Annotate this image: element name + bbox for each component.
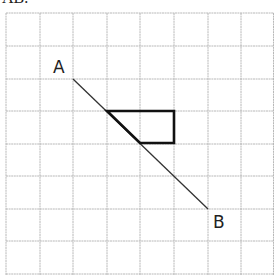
point-label-a: A xyxy=(53,57,65,77)
point-label-b: B xyxy=(213,212,225,232)
grid-diagram: A B xyxy=(0,0,274,275)
